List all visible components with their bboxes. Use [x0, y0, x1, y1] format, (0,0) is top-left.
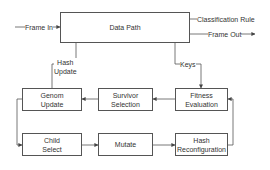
- genom-update-node: Genom Update: [22, 88, 82, 111]
- hash-update-label-line1: Hash: [54, 58, 77, 67]
- fitness-evaluation-label-line2: Evaluation: [185, 100, 218, 109]
- frame-in-label: Frame In: [25, 23, 53, 32]
- survivor-selection-label-line1: Survivor: [113, 91, 139, 100]
- hash-update-label-line2: Update: [54, 67, 77, 76]
- genom-update-label-line2: Update: [41, 100, 64, 109]
- hash-reconfiguration-label-line2: Reconfiguration: [177, 145, 226, 154]
- mutate-label: Mutate: [115, 140, 136, 149]
- fitness-evaluation-node: Fitness Evaluation: [175, 88, 228, 111]
- genom-update-label-line1: Genom: [41, 91, 64, 100]
- data-path-node: Data Path: [60, 12, 190, 43]
- hash-reconfiguration-label-line1: Hash: [193, 136, 209, 145]
- classification-rule-label: Classification Rule: [197, 15, 255, 24]
- hash-update-label: Hash Update: [54, 58, 77, 76]
- frame-out-label: Frame Out: [208, 30, 241, 39]
- mutate-node: Mutate: [98, 133, 153, 156]
- hash-reconfiguration-node: Hash Reconfiguration: [175, 133, 228, 156]
- keys-label: Keys: [180, 60, 196, 69]
- child-select-node: Child Select: [22, 133, 82, 156]
- child-select-label-line2: Select: [42, 145, 61, 154]
- child-select-label-line1: Child: [44, 136, 60, 145]
- survivor-selection-label-line2: Selection: [111, 100, 140, 109]
- data-path-label: Data Path: [109, 23, 140, 32]
- survivor-selection-node: Survivor Selection: [98, 88, 153, 111]
- fitness-evaluation-label-line1: Fitness: [190, 91, 213, 100]
